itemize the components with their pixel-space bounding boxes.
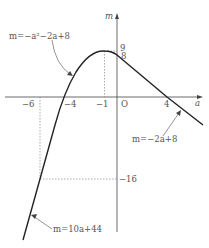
x-axis-label: a [195, 98, 200, 108]
y-axis-label: m [105, 11, 113, 21]
line-right-pointer [163, 113, 179, 136]
parabola-pointer [52, 40, 71, 75]
line-left-equation: m=10a+44 [53, 224, 102, 234]
parabola-equation: m=−a²−2a+8 [9, 31, 70, 41]
origin-label: O [121, 99, 128, 109]
line-right-arrow-icon [176, 110, 181, 116]
graph: m a O −6 −4 −1 4 9 8 −16 m=−a²−2a+8 m=−2… [0, 0, 209, 248]
x-tick-4: 4 [164, 99, 169, 109]
x-tick-minus4: −4 [64, 99, 77, 109]
x-tick-minus6: −6 [22, 99, 35, 109]
parabola-arrow-icon [67, 71, 73, 76]
y-tick-minus16: −16 [119, 174, 137, 184]
x-tick-minus1: −1 [96, 99, 109, 109]
function-curve [23, 51, 203, 240]
line-right-equation: m=−2a+8 [132, 134, 177, 144]
y-tick-8: 8 [121, 51, 126, 61]
y-axis-arrow-icon [115, 13, 119, 19]
line-left-pointer [33, 216, 52, 229]
